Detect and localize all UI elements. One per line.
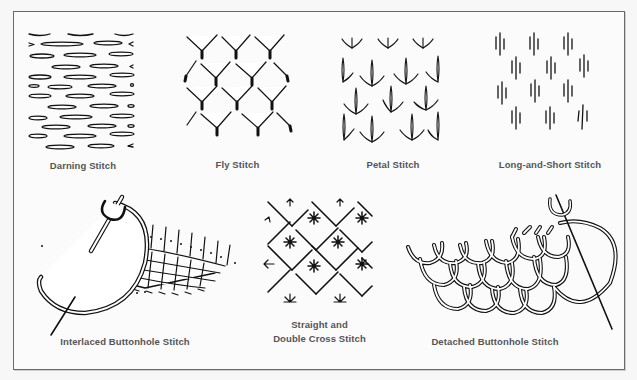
label-detached-buttonhole-stitch: Detached Buttonhole Stitch	[420, 336, 570, 347]
interlaced-buttonhole-stitch-illustration	[25, 193, 240, 338]
label-darning-stitch: Darning Stitch	[28, 160, 138, 171]
darning-stitch-illustration	[28, 30, 138, 150]
label-interlaced-buttonhole-stitch: Interlaced Buttonhole Stitch	[55, 336, 195, 347]
panel-detached-buttonhole-stitch: Detached Buttonhole Stitch	[400, 193, 615, 353]
label-line-2: Double Cross Stitch	[252, 332, 387, 346]
label-line-1: Straight and	[252, 318, 387, 332]
label-straight-and-double-cross-stitch: Straight and Double Cross Stitch	[252, 318, 387, 346]
detached-buttonhole-stitch-illustration	[400, 193, 615, 338]
long-and-short-stitch-illustration	[490, 30, 610, 140]
label-long-and-short-stitch: Long-and-Short Stitch	[480, 159, 620, 170]
straight-and-double-cross-stitch-illustration	[262, 198, 377, 313]
panel-fly-stitch: Fly Stitch	[180, 30, 295, 160]
panel-darning-stitch: Darning Stitch	[28, 30, 138, 160]
label-petal-stitch: Petal Stitch	[338, 159, 448, 170]
panel-petal-stitch: Petal Stitch	[338, 30, 448, 160]
petal-stitch-illustration	[338, 30, 448, 145]
fly-stitch-illustration	[180, 30, 295, 140]
panel-interlaced-buttonhole-stitch: Interlaced Buttonhole Stitch	[25, 193, 240, 353]
panel-long-and-short-stitch: Long-and-Short Stitch	[490, 30, 610, 160]
label-fly-stitch: Fly Stitch	[180, 159, 295, 170]
panel-straight-and-double-cross-stitch: Straight and Double Cross Stitch	[262, 198, 377, 358]
